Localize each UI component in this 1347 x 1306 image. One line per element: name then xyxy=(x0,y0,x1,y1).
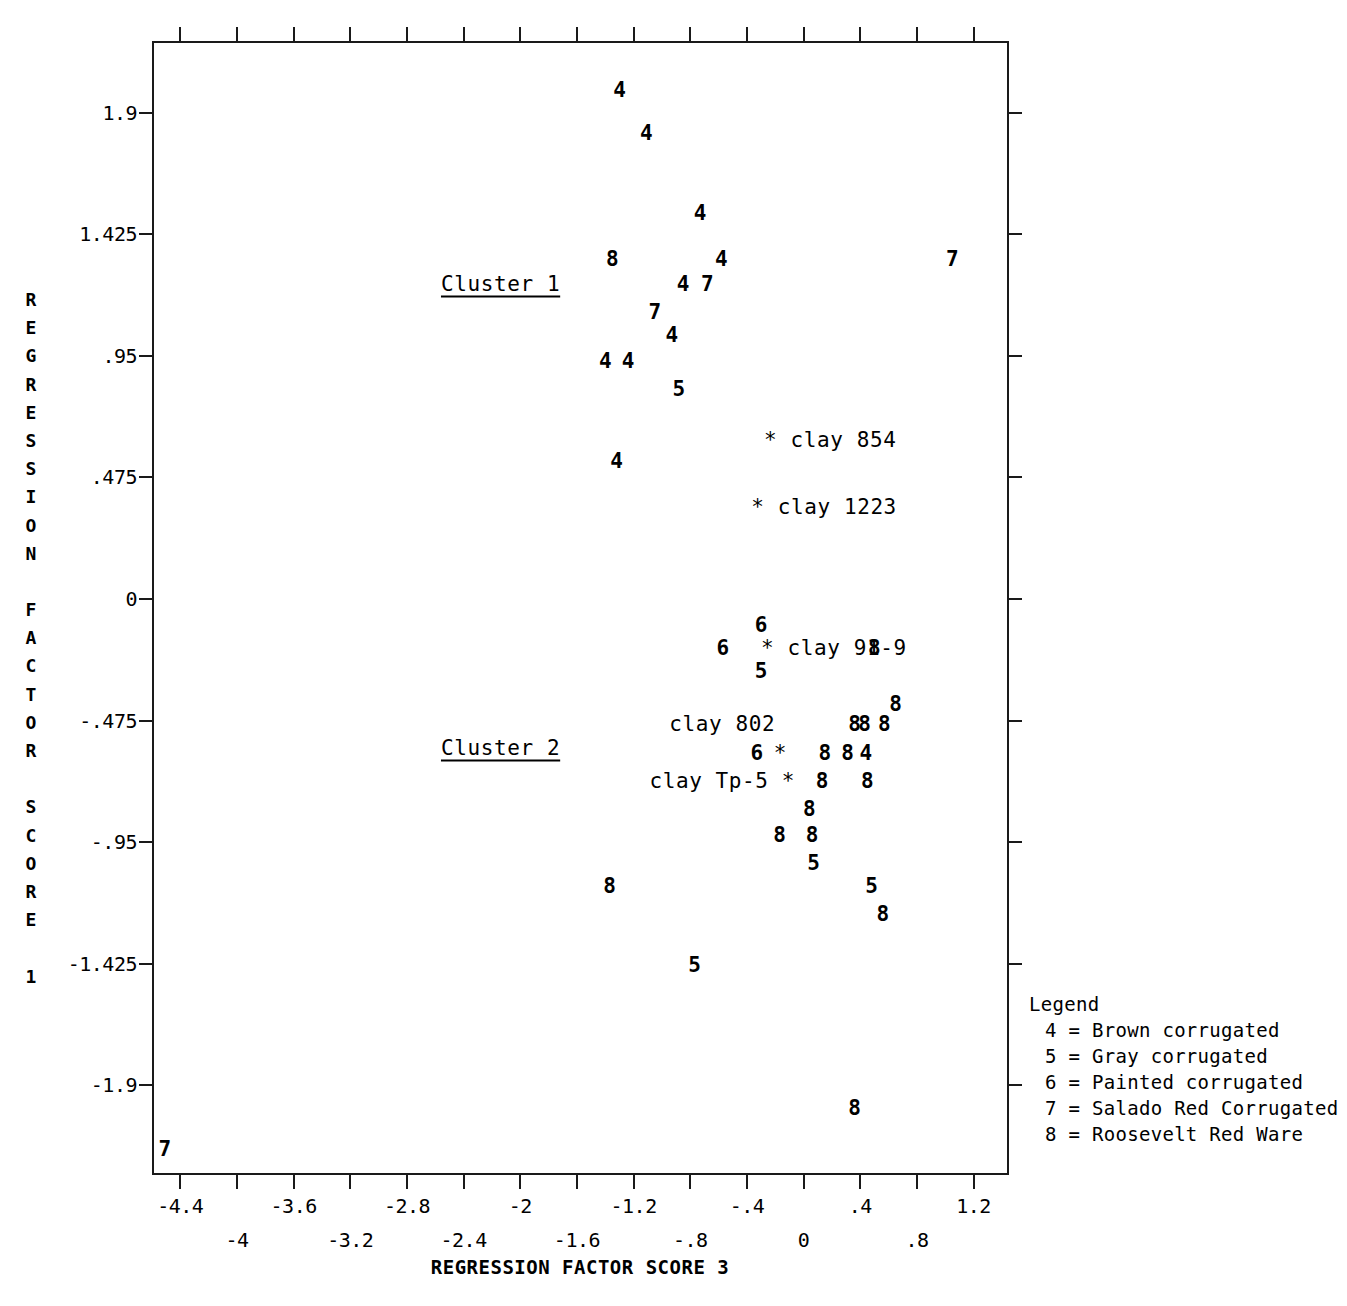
data-point-8: 8 xyxy=(878,714,891,735)
x-tick-top xyxy=(406,27,408,41)
y-axis-title-char: C xyxy=(18,652,44,680)
data-point-8: 8 xyxy=(606,248,619,269)
y-axis-title-char: 1 xyxy=(18,963,44,991)
data-point-8: 8 xyxy=(877,903,890,924)
cluster-label-1: Cluster 1 xyxy=(441,274,560,295)
data-point-8: 8 xyxy=(889,693,902,714)
legend-item-5: 5 = Gray corrugated xyxy=(1045,1043,1338,1069)
y-axis-title-char: C xyxy=(18,822,44,850)
legend-rows: 4 = Brown corrugated5 = Gray corrugated6… xyxy=(1029,1017,1338,1147)
cluster-label-2: Cluster 2 xyxy=(441,737,560,758)
y-axis-title-char: E xyxy=(18,906,44,934)
x-tick-bottom xyxy=(576,1175,578,1189)
y-tick-left xyxy=(139,1084,152,1086)
y-tick-left xyxy=(139,355,152,357)
x-tick-label: -2.8 xyxy=(347,1196,467,1216)
data-point-6: 6 xyxy=(755,614,768,635)
y-tick-right xyxy=(1009,598,1022,600)
y-tick-left xyxy=(139,720,152,722)
data-point-5: 5 xyxy=(807,852,820,873)
data-point-8: 8 xyxy=(861,770,874,791)
data-point-8: 8 xyxy=(858,714,871,735)
data-point-4: 4 xyxy=(640,123,653,144)
y-axis-title-char: R xyxy=(18,737,44,765)
x-tick-top xyxy=(916,27,918,41)
data-point-5: 5 xyxy=(755,660,768,681)
data-point-8: 8 xyxy=(773,824,786,845)
annotation-label: * clay 854 xyxy=(764,430,896,451)
x-tick-bottom xyxy=(236,1175,238,1189)
x-tick-bottom xyxy=(633,1175,635,1189)
x-tick-bottom xyxy=(406,1175,408,1189)
x-axis-title: REGRESSION FACTOR SCORE 3 xyxy=(0,1256,1160,1278)
annotation-label: * clay 1223 xyxy=(751,496,897,517)
y-axis-title-char: A xyxy=(18,624,44,652)
y-tick-left xyxy=(139,841,152,843)
y-tick-right xyxy=(1009,841,1022,843)
x-tick-top xyxy=(179,27,181,41)
x-tick-label: -1.6 xyxy=(517,1230,637,1250)
x-tick-top xyxy=(859,27,861,41)
data-point-4: 4 xyxy=(860,742,873,763)
y-axis-title-char: N xyxy=(18,540,44,568)
data-point-7: 7 xyxy=(649,302,662,323)
x-tick-label: 1.2 xyxy=(914,1196,1034,1216)
x-tick-top xyxy=(803,27,805,41)
x-tick-top xyxy=(236,27,238,41)
data-point-4: 4 xyxy=(666,325,679,346)
y-axis-title-char: T xyxy=(18,681,44,709)
x-tick-label: -1.2 xyxy=(574,1196,694,1216)
data-point-7: 7 xyxy=(701,274,714,295)
y-axis-title: REGRESSION FACTOR SCORE 1 xyxy=(18,286,44,991)
x-tick-top xyxy=(519,27,521,41)
y-axis-title-char: I xyxy=(18,483,44,511)
x-tick-top xyxy=(293,27,295,41)
data-point-7: 7 xyxy=(946,248,959,269)
x-tick-bottom xyxy=(916,1175,918,1189)
annotation-label: * xyxy=(774,742,787,763)
x-tick-label: .4 xyxy=(800,1196,920,1216)
x-tick-bottom xyxy=(519,1175,521,1189)
y-tick-left xyxy=(139,963,152,965)
x-tick-bottom xyxy=(803,1175,805,1189)
y-axis-title-char: S xyxy=(18,793,44,821)
y-axis-title-char: R xyxy=(18,878,44,906)
data-point-8: 8 xyxy=(806,824,819,845)
y-axis-title-char: O xyxy=(18,850,44,878)
x-tick-top xyxy=(689,27,691,41)
y-tick-label: 1.9 xyxy=(0,103,137,123)
data-point-4: 4 xyxy=(715,248,728,269)
x-tick-top xyxy=(973,27,975,41)
x-tick-label: 0 xyxy=(744,1230,864,1250)
data-point-8: 8 xyxy=(816,770,829,791)
data-point-4: 4 xyxy=(613,79,626,100)
data-point-8: 8 xyxy=(841,742,854,763)
legend-item-4: 4 = Brown corrugated xyxy=(1045,1017,1338,1043)
y-tick-right xyxy=(1009,963,1022,965)
data-point-8: 8 xyxy=(803,798,816,819)
data-point-4: 4 xyxy=(694,202,707,223)
x-tick-bottom xyxy=(689,1175,691,1189)
legend-item-8: 8 = Roosevelt Red Ware xyxy=(1045,1121,1338,1147)
data-point-4: 4 xyxy=(599,350,612,371)
y-axis-title-char: E xyxy=(18,399,44,427)
data-point-4: 4 xyxy=(610,450,623,471)
data-point-8: 8 xyxy=(819,742,832,763)
data-point-5: 5 xyxy=(865,875,878,896)
legend: Legend 4 = Brown corrugated5 = Gray corr… xyxy=(1029,991,1338,1147)
data-point-8: 8 xyxy=(603,875,616,896)
x-tick-label: -2.4 xyxy=(404,1230,524,1250)
y-axis-title-char: S xyxy=(18,455,44,483)
y-tick-left xyxy=(139,598,152,600)
x-tick-top xyxy=(463,27,465,41)
x-tick-label: -4.4 xyxy=(120,1196,240,1216)
y-axis-title-char: F xyxy=(18,596,44,624)
annotation-label: * clay 91-9 xyxy=(761,637,907,658)
x-tick-label: -.8 xyxy=(630,1230,750,1250)
data-point-4: 4 xyxy=(677,274,690,295)
y-tick-right xyxy=(1009,112,1022,114)
y-axis-title-char: O xyxy=(18,709,44,737)
x-tick-bottom xyxy=(349,1175,351,1189)
data-point-4: 4 xyxy=(622,350,635,371)
data-point-6: 6 xyxy=(717,637,730,658)
